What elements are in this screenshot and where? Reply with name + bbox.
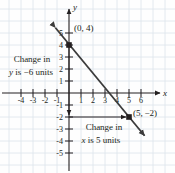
- graph-figure: -4 -3 -2 -1 1 2 3 4 5 6 5 4 3 2 1 -1 -2 …: [0, 0, 175, 173]
- y-tick-label: -5: [56, 149, 63, 158]
- point-label-y-intercept: (0, 4): [74, 23, 94, 33]
- y-tick-label: 2: [59, 65, 63, 74]
- y-tick-label: -2: [56, 113, 63, 122]
- y-tick-label: 1: [59, 77, 63, 86]
- x-tick-label: 1: [79, 96, 83, 105]
- x-tick-labels: -4 -3 -2 -1 1 2 3 4 5 6: [18, 96, 143, 105]
- point-marker-y-intercept: [66, 42, 72, 48]
- x-tick-label: -2: [42, 96, 49, 105]
- point-label-second: (5, −2): [133, 108, 157, 118]
- rise-annotation-line1: Change in: [14, 54, 51, 64]
- x-tick-label: -4: [18, 96, 25, 105]
- point-marker-second: [126, 114, 132, 120]
- run-annotation-line1: Change in: [86, 122, 123, 132]
- rise-text: is −6 units: [13, 67, 53, 77]
- y-axis-label: y: [72, 2, 77, 12]
- coordinate-plane-svg: -4 -3 -2 -1 1 2 3 4 5 6 5 4 3 2 1 -1 -2 …: [0, 0, 175, 173]
- y-tick-label: 4: [59, 41, 63, 50]
- run-annotation: Change in x is 5 units: [81, 122, 123, 145]
- y-tick-label: -1: [56, 101, 63, 110]
- x-tick-label: 5: [127, 96, 131, 105]
- x-tick-label: 3: [103, 96, 107, 105]
- x-tick-label: -3: [30, 96, 37, 105]
- x-tick-label: 2: [91, 96, 95, 105]
- x-tick-label: 6: [139, 96, 143, 105]
- run-annotation-line2: x is 5 units: [81, 135, 121, 145]
- rise-annotation: Change in y is −6 units: [8, 54, 53, 77]
- x-axis-label: x: [162, 88, 167, 98]
- y-tick-label: -3: [56, 125, 63, 134]
- y-tick-label: -4: [56, 137, 63, 146]
- run-text: is 5 units: [86, 135, 121, 145]
- y-tick-label: 3: [59, 53, 63, 62]
- rise-annotation-line2: y is −6 units: [8, 67, 53, 77]
